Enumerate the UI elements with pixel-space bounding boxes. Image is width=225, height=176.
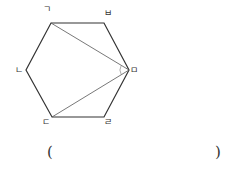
angle-mark-arc xyxy=(120,65,121,74)
vertex-label-mieum: ㅁ xyxy=(130,66,138,75)
vertex-label-rieul: ㄹ xyxy=(104,118,112,127)
diagonal-miem-digeut xyxy=(52,70,129,117)
hexagon-outline xyxy=(26,23,129,117)
vertex-label-digeut: ㄷ xyxy=(42,118,50,127)
vertex-label-nieun: ㄴ xyxy=(15,66,23,75)
answer-close-paren: ) xyxy=(215,145,221,160)
hexagon-diagram: ㄱ ㅂ ㅁ ㄹ ㄷ ㄴ ( ) xyxy=(0,0,225,176)
diagonal-miem-giyeok xyxy=(51,23,129,70)
answer-blank[interactable] xyxy=(58,143,210,161)
answer-open-paren: ( xyxy=(47,145,53,160)
vertex-label-bieup: ㅂ xyxy=(104,9,112,18)
vertex-label-giyeok: ㄱ xyxy=(43,5,51,14)
